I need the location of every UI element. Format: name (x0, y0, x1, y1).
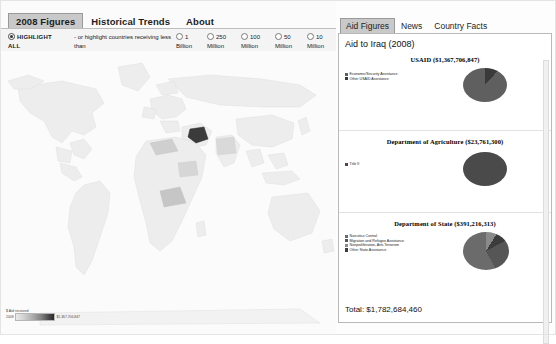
section-state-legend: Narcotics Control Migration and Refugee … (345, 234, 404, 252)
aid-figures-panel: Aid to Iraq (2008) USAID ($1,367,706,847… (338, 33, 552, 323)
section-usaid: USAID ($1,367,706,847) Economic/Security… (339, 56, 551, 122)
option-label: 50 (284, 34, 291, 40)
section-divider (339, 130, 551, 131)
tab-country-facts[interactable]: Country Facts (428, 18, 493, 33)
tab-historical-trends[interactable]: Historical Trends (83, 13, 178, 29)
map-legend-min: 2008 (6, 315, 14, 319)
legend-swatch-icon (345, 239, 348, 242)
radio-icon (275, 33, 282, 40)
option-label: 100 (250, 34, 260, 40)
section-agriculture: Department of Agriculture ($23,761,300) … (339, 138, 551, 204)
legend-item: Other USAID Assistance (345, 77, 398, 82)
highlight-all-label: HIGHLIGHT (17, 34, 52, 40)
radio-icon (307, 33, 314, 40)
highlight-all-radio[interactable]: HIGHLIGHT ALL (8, 33, 52, 50)
option-unit: Million (241, 42, 260, 50)
radio-icon (241, 33, 248, 40)
legend-label: Title II (350, 162, 360, 167)
legend-swatch-icon (345, 235, 348, 238)
shaded-country (216, 137, 236, 155)
legend-swatch-icon (345, 244, 348, 247)
legend-item: Other State Assistance (345, 248, 404, 253)
threshold-hint: - or highlight countries receiving less … (74, 33, 174, 50)
option-label: 10 (316, 34, 323, 40)
section-usaid-legend: Economic/Security Assistance Other USAID… (345, 72, 398, 81)
section-divider (339, 212, 551, 213)
radio-icon (176, 33, 183, 40)
option-unit: Million (307, 42, 324, 50)
legend-swatch-icon (345, 73, 348, 76)
total-aid: Total: $1,782,684,460 (345, 305, 422, 314)
map-legend-gradient (15, 313, 56, 321)
world-map[interactable]: $ Aid received 2008 $1,367,706,847 (0, 51, 336, 335)
main-tabbar: 2008 Figures Historical Trends About (8, 14, 222, 29)
pie-chart-state (463, 232, 509, 270)
threshold-option-1-billion[interactable]: 1 Billion (176, 33, 192, 50)
radio-icon (8, 33, 15, 40)
legend-swatch-icon (345, 77, 348, 80)
threshold-option-250-million[interactable]: 250 Million (207, 33, 226, 50)
threshold-hint-line1: - or highlight countries receiving less (74, 34, 171, 40)
legend-swatch-icon (345, 248, 348, 251)
world-map-svg[interactable] (0, 51, 336, 335)
legend-item: Title II (345, 162, 359, 167)
map-legend-scale: 2008 $1,367,706,847 (6, 313, 80, 321)
option-unit: Billion (176, 42, 192, 50)
section-state: Department of State ($391,216,313) Narco… (339, 220, 551, 300)
threshold-hint-line2: than (74, 42, 174, 50)
legend-label: Other State Assistance (350, 248, 387, 253)
pie-chart-agriculture (463, 152, 507, 186)
section-state-title: Department of State ($391,216,313) (339, 220, 551, 227)
option-label: 1 (185, 34, 188, 40)
threshold-option-100-million[interactable]: 100 Million (241, 33, 260, 50)
highlight-all-label-2: ALL (8, 42, 52, 50)
threshold-option-10-million[interactable]: 10 Million (307, 33, 324, 50)
section-agriculture-legend: Title II (345, 162, 359, 167)
section-agriculture-title: Department of Agriculture ($23,761,300) (339, 138, 551, 145)
right-tabbar: Aid Figures News Country Facts (340, 18, 493, 33)
map-legend-max: $1,367,706,847 (56, 315, 80, 319)
legend-swatch-icon (345, 163, 348, 166)
right-panel: Aid Figures News Country Facts Aid to Ir… (338, 12, 552, 324)
panel-scrollbar[interactable] (543, 60, 549, 344)
tab-aid-figures[interactable]: Aid Figures (340, 18, 395, 33)
tab-about[interactable]: About (178, 13, 222, 29)
option-unit: Million (207, 42, 226, 50)
legend-label: Other USAID Assistance (350, 77, 389, 82)
option-label: 250 (216, 34, 226, 40)
left-panel: 2008 Figures Historical Trends About HIG… (0, 0, 336, 335)
map-legend: $ Aid received 2008 $1,367,706,847 (6, 309, 80, 321)
section-usaid-title: USAID ($1,367,706,847) (339, 56, 551, 63)
panel-title: Aid to Iraq (2008) (345, 39, 415, 49)
tab-2008-figures[interactable]: 2008 Figures (8, 13, 83, 29)
radio-icon (207, 33, 214, 40)
option-unit: Million (275, 42, 292, 50)
pie-chart-usaid (463, 68, 507, 102)
shaded-country (178, 161, 198, 177)
map-controls: HIGHLIGHT ALL - or highlight countries r… (0, 29, 336, 52)
tab-news[interactable]: News (395, 18, 428, 33)
threshold-option-50-million[interactable]: 50 Million (275, 33, 292, 50)
